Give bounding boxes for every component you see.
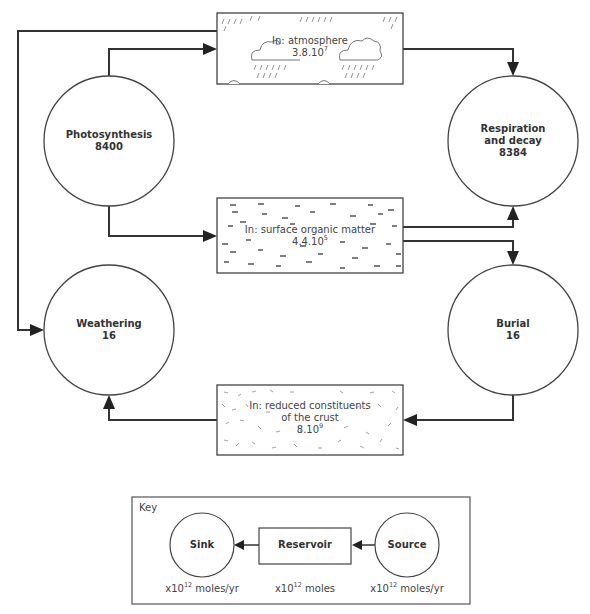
organic-matter-label: In: surface organic matter 4.4.105 [217,224,403,248]
key-reservoir-label: Reservoir [259,539,351,551]
organic-matter-name: In: surface organic matter [217,224,403,236]
photosynthesis-label: Photosynthesis 8400 [44,129,174,153]
arrowhead-icon [507,206,519,220]
flow-photosynthesis-to-organic [109,206,205,236]
respiration-name-line1: Respiration [448,123,578,135]
arrowhead-icon [30,324,44,336]
respiration-label: Respiration and decay 8384 [448,123,578,159]
crust-name-line1: In: reduced constituents [217,400,403,412]
key-sink-label: Sink [170,539,234,551]
key-source-label: Source [375,539,439,551]
arrowhead-icon [403,414,417,426]
atmosphere-label: In: atmosphere 3.8.107 [217,35,403,59]
arrowhead-icon [507,62,519,76]
flow-organic-to-respiration [403,218,513,227]
weathering-name: Weathering [44,318,174,330]
photosynthesis-name: Photosynthesis [44,129,174,141]
crust-label: In: reduced constituents of the crust 8.… [217,400,403,436]
key-reservoir-unit: x1012 moles [255,583,355,595]
arrowhead-icon [507,251,519,265]
atmosphere-value: 3.8.107 [217,47,403,59]
flow-burial-to-crust [415,395,513,420]
flow-organic-to-burial [403,241,513,253]
respiration-name-line2: and decay [448,135,578,147]
weathering-value: 16 [44,330,174,342]
arrowhead-icon [203,43,217,55]
key-sink-unit: x1012 moles/yr [152,583,252,595]
arrowhead-icon [203,230,217,242]
burial-value: 16 [448,330,578,342]
weathering-label: Weathering 16 [44,318,174,342]
crust-name-line2: of the crust [217,412,403,424]
crust-value: 8.109 [217,424,403,436]
key-source-unit: x1012 moles/yr [357,583,457,595]
arrowhead-icon [103,395,115,409]
burial-label: Burial 16 [448,318,578,342]
flow-crust-to-weathering [109,407,217,420]
organic-matter-value: 4.4.105 [217,236,403,248]
respiration-value: 8384 [448,147,578,159]
key-title: Key [139,502,157,513]
flow-photosynthesis-to-atmosphere [109,49,205,76]
burial-name: Burial [448,318,578,330]
flow-atmosphere-to-respiration [403,49,513,64]
photosynthesis-value: 8400 [44,141,174,153]
atmosphere-name: In: atmosphere [217,35,403,47]
carbon-cycle-diagram [0,0,590,614]
